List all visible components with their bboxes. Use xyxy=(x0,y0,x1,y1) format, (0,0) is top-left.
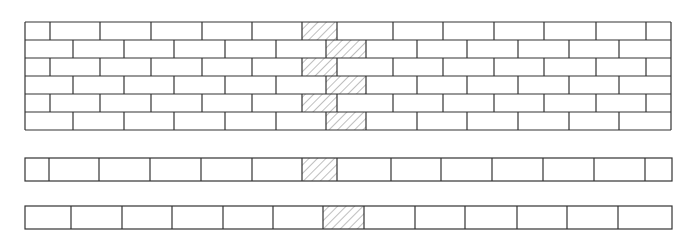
strip-odd-course xyxy=(25,158,672,181)
strip-even-course xyxy=(25,206,672,229)
brick-course-2 xyxy=(73,40,619,58)
hatched-brick xyxy=(302,94,337,112)
hatched-brick xyxy=(302,158,337,181)
hatched-brick xyxy=(302,22,337,40)
hatched-brick xyxy=(323,206,364,229)
brick-course-5 xyxy=(50,94,646,112)
strip-outline xyxy=(25,158,672,181)
brick-wall xyxy=(25,22,671,130)
hatched-brick xyxy=(326,40,366,58)
brick-course-3 xyxy=(50,58,646,76)
brick-diagram xyxy=(0,0,688,241)
hatched-brick xyxy=(302,58,337,76)
brick-course-1 xyxy=(50,22,646,40)
brick-course-6 xyxy=(73,112,619,130)
hatched-brick xyxy=(326,112,366,130)
brick-course-4 xyxy=(73,76,619,94)
hatched-brick xyxy=(326,76,366,94)
brick-course-strips xyxy=(25,158,672,229)
